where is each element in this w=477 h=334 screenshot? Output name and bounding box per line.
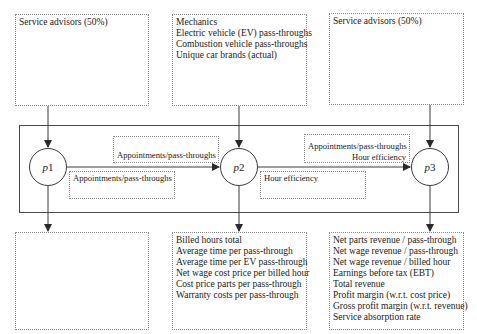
edge-label-p2-p3-below: Hour efficiency bbox=[260, 171, 366, 199]
edge-label-text: Hour efficiency bbox=[264, 173, 362, 184]
process-node-p1: p1 bbox=[29, 148, 67, 186]
output-p3-line: Earnings before tax (EBT) bbox=[333, 268, 460, 279]
input-p2-line: Unique car brands (actual) bbox=[176, 50, 303, 61]
edge-label-p2-p3-above: Appointments/pass-throughs Hour efficien… bbox=[304, 134, 410, 163]
output-box-p1 bbox=[15, 232, 149, 330]
output-p3-line: Gross profit margin (w.r.t. revenue) bbox=[333, 301, 460, 312]
node-number: 2 bbox=[239, 161, 245, 173]
input-p3-line: Service advisors (50%) bbox=[333, 16, 460, 27]
output-p3-line: Service absorption rate bbox=[333, 312, 460, 323]
input-p2-line: Electric vehicle (EV) pass-throughs bbox=[176, 28, 303, 39]
output-p3-line: Net wage revenue / pass-through bbox=[333, 246, 460, 257]
input-p1-line: Service advisors (50%) bbox=[19, 17, 145, 28]
input-box-p1: Service advisors (50%) bbox=[15, 14, 149, 106]
output-p3-line: Net wage revenue / billed hour bbox=[333, 257, 460, 268]
output-p2-line: Net wage cost price per billed hour bbox=[176, 268, 303, 279]
input-box-p2: Mechanics Electric vehicle (EV) pass-thr… bbox=[172, 14, 307, 106]
edge-label-p1-p2-below: Appointments/pass-throughs bbox=[69, 171, 175, 199]
node-number: 3 bbox=[430, 161, 436, 173]
input-p2-line: Mechanics bbox=[176, 17, 303, 28]
input-p2-line: Combustion vehicle pass-throughs bbox=[176, 39, 303, 50]
input-box-p3: Service advisors (50%) bbox=[329, 13, 464, 105]
output-p2-line: Billed hours total bbox=[176, 235, 303, 246]
process-node-p2: p2 bbox=[220, 148, 258, 186]
output-p2-line: Average time per pass-through bbox=[176, 246, 303, 257]
edge-label-text: Appointments/pass-throughs bbox=[117, 150, 215, 161]
output-box-p2: Billed hours total Average time per pass… bbox=[172, 232, 307, 330]
output-p3-line: Total revenue bbox=[333, 279, 460, 290]
process-node-p3: p3 bbox=[411, 148, 449, 186]
edge-label-p1-p2-above: Appointments/pass-throughs bbox=[113, 136, 219, 163]
output-p2-line: Average time per EV pass-through bbox=[176, 257, 303, 268]
output-p2-line: Cost price parts per pass-through bbox=[176, 279, 303, 290]
output-p2-line: Warranty costs per pass-through bbox=[176, 290, 303, 301]
output-box-p3: Net parts revenue / pass-through Net wag… bbox=[329, 232, 464, 330]
edge-label-text: Hour efficiency bbox=[308, 152, 406, 163]
output-p3-line: Net parts revenue / pass-through bbox=[333, 235, 460, 246]
edge-label-text: Appointments/pass-throughs bbox=[308, 141, 406, 152]
output-p3-line: Profit margin (w.r.t. cost price) bbox=[333, 290, 460, 301]
edge-label-text: Appointments/pass-throughs bbox=[73, 173, 171, 184]
node-number: 1 bbox=[48, 161, 54, 173]
